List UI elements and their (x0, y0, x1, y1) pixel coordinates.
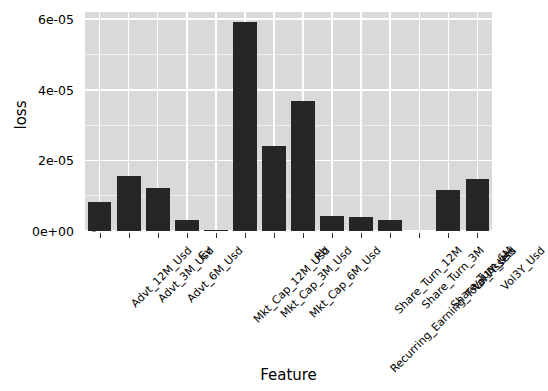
x-axis-title: Feature (85, 366, 492, 384)
bar (291, 101, 315, 231)
y-axis-tick-labels: 0e+002e-054e-056e-05 (12, 0, 74, 391)
gridline-horizontal-minor (85, 54, 492, 55)
bar (436, 190, 460, 231)
bar (262, 146, 286, 231)
gridline-vertical (99, 12, 101, 231)
bar (320, 216, 344, 231)
gridline-vertical (360, 12, 362, 231)
plot-panel (85, 12, 492, 231)
bar (466, 179, 490, 231)
x-axis-tick-mark (274, 233, 275, 238)
x-axis-tick-label: Mkt_Cap_12M_Usd (251, 244, 333, 326)
x-axis-tick-mark (303, 233, 304, 238)
x-axis-tick-label: Advt_6M_Usd (184, 244, 245, 305)
x-axis-tick-mark (419, 233, 420, 238)
x-axis-tick-marks (85, 231, 492, 239)
x-axis-tick-mark (158, 233, 159, 238)
gridline-horizontal (85, 160, 492, 162)
y-axis-tick-label: 2e-05 (12, 153, 74, 168)
bar (88, 202, 112, 231)
x-axis-tick-mark (216, 233, 217, 238)
x-axis-tick-label: Advt_3M_Usd (155, 244, 216, 305)
x-axis-tick-label: Vol3Y_Usd (499, 244, 548, 293)
gridline-horizontal-minor (85, 125, 492, 126)
gridline-vertical (186, 12, 188, 231)
x-axis-tick-label: Ev (196, 244, 215, 263)
x-axis-tick-label: Mkt_Cap_6M_Usd (307, 244, 384, 321)
gridline-horizontal (85, 18, 492, 20)
x-axis-tick-mark (129, 233, 130, 238)
x-axis-tick-mark (187, 233, 188, 238)
x-axis-tick-label: Advt_12M_Usd (128, 244, 194, 310)
x-axis-tick-label: Share_Turn_12M (392, 244, 465, 317)
bar (175, 220, 199, 231)
gridline-vertical (419, 12, 421, 231)
x-axis-tick-mark (100, 233, 101, 238)
x-axis-tick-mark (477, 233, 478, 238)
bar (378, 220, 402, 231)
gridline-vertical (331, 12, 333, 231)
x-axis-tick-mark (332, 233, 333, 238)
x-axis-tick-label: Mkt_Cap_3M_Usd (278, 244, 355, 321)
x-axis-tick-mark (448, 233, 449, 238)
gridline-vertical (389, 12, 391, 231)
y-axis-tick-label: 4e-05 (12, 82, 74, 97)
bar (146, 188, 170, 231)
x-axis-tick-mark (245, 233, 246, 238)
x-axis-tick-mark (390, 233, 391, 238)
y-axis-tick-label: 0e+00 (12, 224, 74, 239)
bar (233, 22, 257, 231)
x-axis-tick-label: Share_Turn_3M (419, 244, 487, 312)
x-axis-tick-label: Share_Turn_6M (448, 244, 516, 312)
gridline-vertical (215, 12, 217, 231)
x-axis-tick-label: Pb (312, 244, 331, 263)
bar (117, 176, 141, 231)
x-axis-tick-label: Vol1Y_Usd (470, 244, 519, 293)
y-axis-tick-label: 6e-05 (12, 12, 74, 27)
x-axis-tick-label: Recurring_Earning_Total_Assets (388, 244, 519, 375)
bar (349, 217, 373, 231)
x-axis-tick-mark (361, 233, 362, 238)
gridline-horizontal (85, 89, 492, 91)
